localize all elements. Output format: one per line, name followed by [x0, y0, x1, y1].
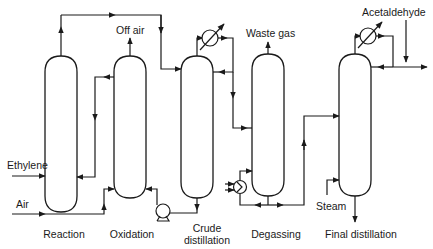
process-flow-diagram [0, 0, 433, 249]
crude-distillation-label: Crude distillation [184, 222, 230, 246]
final-distillation-column [339, 54, 371, 196]
pump-icon [156, 204, 170, 221]
steam-line [327, 180, 339, 195]
ethylene-label: Ethylene [7, 159, 48, 171]
air-label: Air [16, 198, 29, 210]
degassing-label: Degassing [251, 228, 301, 240]
degassing-column [252, 54, 284, 196]
final-distillation-label: Final distillation [325, 228, 397, 240]
crude-distillation-label-line2: distillation [184, 234, 230, 246]
acetaldehyde-label: Acetaldehyde [362, 6, 426, 18]
off-air-label: Off air [116, 24, 144, 36]
oxidation-vessel [114, 56, 146, 198]
crude-distillation-column [181, 56, 213, 198]
steam-label: Steam [316, 200, 346, 212]
condenser-icon [358, 22, 382, 48]
condenser-icon [200, 24, 224, 50]
crude-distillation-label-line1: Crude [184, 222, 230, 234]
oxidation-label: Oxidation [110, 228, 154, 240]
reaction-vessel [45, 56, 77, 212]
waste-gas-label: Waste gas [246, 27, 295, 39]
reaction-label: Reaction [43, 228, 84, 240]
heat-exchanger-icon [234, 181, 247, 194]
